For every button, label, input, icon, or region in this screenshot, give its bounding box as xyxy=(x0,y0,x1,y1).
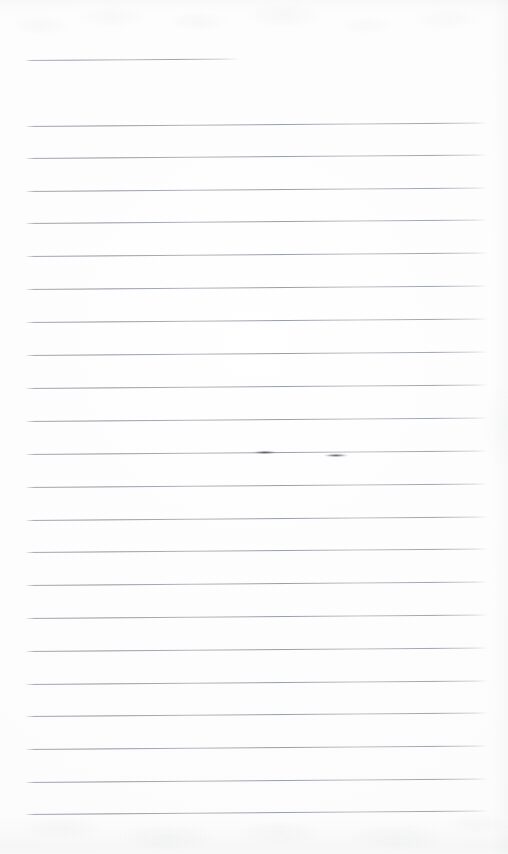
pen-dash-mark xyxy=(252,451,278,454)
scanned-page xyxy=(0,0,508,854)
pen-dash-mark xyxy=(323,454,349,457)
pen-marks-layer xyxy=(0,0,508,854)
